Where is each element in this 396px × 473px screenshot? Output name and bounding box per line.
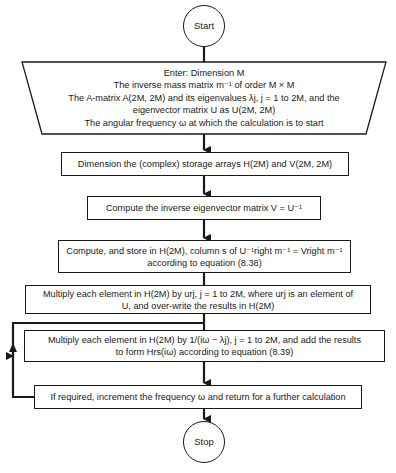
step-compute-text-1: Compute, and store in H(2M), column s of… [66, 245, 342, 257]
step-compute-store: Compute, and store in H(2M), column s of… [58, 240, 351, 273]
step-inverse-text: Compute the inverse eigenvector matrix V… [106, 202, 302, 214]
step-multiply-u: Multiply each element in H(2M) by urj, j… [25, 285, 371, 314]
step-inverse-eigenvector: Compute the inverse eigenvector matrix V… [87, 196, 321, 220]
input-line-4: eigenvector matrix U as U(2M, 2M) [133, 104, 275, 116]
input-block: Enter: Dimension M The inverse mass matr… [22, 62, 386, 134]
loop-arrowhead [9, 343, 17, 352]
step-dimension-text: Dimension the (complex) storage arrays H… [78, 158, 332, 170]
step-multiply-lambda: Multiply each element in H(2M) by 1/(iω … [24, 330, 385, 362]
stop-label: Stop [194, 436, 214, 448]
start-terminal: Start [183, 5, 225, 47]
step-multiply-u-text-1: Multiply each element in H(2M) by urj, j… [43, 288, 353, 300]
input-line-1: Enter: Dimension M [164, 67, 245, 79]
input-line-3: The A-matrix A(2M, 2M) and its eigenvalu… [68, 92, 339, 104]
step-increment-text: If required, increment the frequency ω a… [50, 391, 345, 403]
step-increment-frequency: If required, increment the frequency ω a… [34, 385, 362, 409]
step-dimension-arrays: Dimension the (complex) storage arrays H… [61, 152, 349, 176]
step-multiply-lambda-text-2: to form Hrs(iω) according to equation (8… [116, 346, 294, 358]
step-multiply-u-text-2: U, and over-write the results in H(2M) [122, 300, 275, 312]
step-multiply-lambda-text-1: Multiply each element in H(2M) by 1/(iω … [48, 334, 361, 346]
start-label: Start [194, 20, 214, 32]
stop-terminal: Stop [183, 421, 225, 463]
step-compute-text-2: according to equation (8.38) [147, 257, 261, 269]
input-line-5: The angular frequency ω at which the cal… [84, 117, 323, 129]
input-line-2: The inverse mass matrix m⁻¹ of order M ×… [114, 79, 295, 91]
